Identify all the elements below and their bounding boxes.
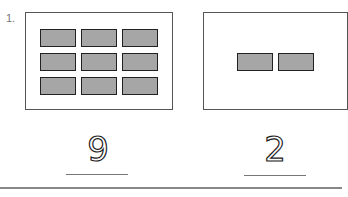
block: [122, 29, 158, 47]
answer-line-left: [66, 174, 128, 175]
block: [237, 53, 273, 71]
right-picture-box: [203, 12, 348, 110]
block: [122, 77, 158, 95]
left-picture-box: [25, 12, 173, 110]
block: [81, 77, 117, 95]
block: [40, 53, 76, 71]
block: [40, 29, 76, 47]
answer-line-right: [244, 175, 306, 176]
question-number: 1.: [6, 12, 15, 24]
block: [81, 29, 117, 47]
answer-trace-right: 2: [245, 132, 305, 166]
answer-trace-left: 9: [68, 132, 128, 166]
block: [81, 53, 117, 71]
divider: [0, 187, 342, 189]
block: [122, 53, 158, 71]
block: [40, 77, 76, 95]
block: [278, 53, 314, 71]
